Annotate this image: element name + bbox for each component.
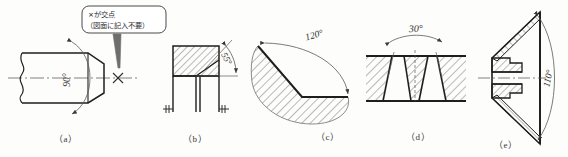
panel-b: 55° [163, 40, 238, 113]
callout-group: ×が交点 （図面に記入不要） [82, 6, 166, 68]
angle-label-c: 120° [304, 28, 324, 43]
panel-e: 110° [478, 12, 555, 144]
lower-body-b [173, 76, 219, 112]
hub-upper-e [492, 58, 522, 72]
hatched-vee-c [251, 46, 348, 124]
drawing-canvas: 90° ×が交点 （図面に記入不要） 55° [0, 0, 568, 157]
angle-label-d: 30° [408, 23, 424, 35]
cone-wall-hatch-e [492, 12, 540, 61]
caption-panel-c: （c） [316, 130, 340, 143]
cone-wall-hatch2-e [492, 95, 540, 144]
angle-arc-d [390, 35, 442, 42]
callout-line-2: （図面に記入不要） [86, 21, 149, 30]
caption-panel-a: （a） [54, 132, 78, 145]
caption-panel-d: （d） [406, 130, 430, 143]
callout-line-1: ×が交点 [88, 10, 115, 19]
angle-label-b: 55° [219, 51, 234, 67]
angle-label-e: 110° [541, 69, 554, 88]
panel-c: 120° [251, 28, 348, 124]
technical-drawing-figure: 90° ×が交点 （図面に記入不要） 55° [0, 0, 568, 157]
callout-leader-line [113, 34, 121, 68]
panel-d: 30° [366, 23, 466, 101]
hub-lower-e [492, 84, 522, 98]
caption-panel-e: （e） [494, 138, 518, 151]
caption-panel-b: （b） [183, 132, 207, 145]
angle-label-a: 90° [62, 73, 72, 87]
